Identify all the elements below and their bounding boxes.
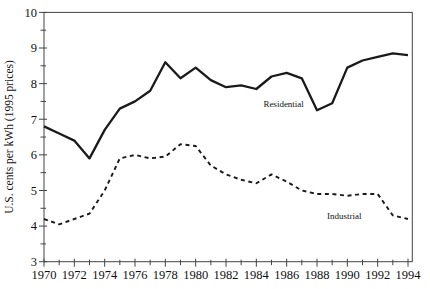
x-axis-tick-label: 1972	[62, 268, 87, 282]
x-axis-tick-label: 1978	[153, 268, 178, 282]
x-axis-tick-label: 1984	[244, 268, 270, 282]
x-axis-tick-label: 1970	[32, 268, 57, 282]
y-axis-tick-label: 7	[31, 113, 37, 127]
chart-figure: U.S. cents per kWh (1995 prices) 3456789…	[0, 0, 430, 289]
x-axis-tick-label: 1980	[183, 268, 208, 282]
y-axis-tick-label: 9	[31, 41, 37, 55]
plot-area: 3456789101970197219741976197819801982198…	[25, 6, 422, 283]
y-axis-tick-label: 8	[31, 77, 37, 91]
series-residential-line	[44, 53, 408, 158]
y-axis-tick-label: 4	[31, 219, 38, 233]
x-axis-tick-label: 1994	[396, 268, 422, 282]
x-axis-tick-label: 1988	[305, 268, 330, 282]
annotation-industrial: Industrial	[327, 211, 362, 221]
y-axis-tick-label: 3	[31, 255, 37, 269]
x-axis-tick-label: 1986	[274, 268, 299, 282]
x-axis-tick-label: 1992	[365, 268, 390, 282]
y-axis-tick-label: 5	[31, 184, 37, 198]
annotation-residential: Residential	[263, 99, 304, 109]
line-chart-canvas: U.S. cents per kWh (1995 prices) 3456789…	[0, 0, 430, 289]
y-axis-title: U.S. cents per kWh (1995 prices)	[3, 60, 16, 214]
y-axis-tick-label: 6	[31, 148, 37, 162]
x-axis-tick-label: 1982	[214, 268, 239, 282]
x-axis-tick-label: 1976	[123, 268, 148, 282]
x-axis-tick-label: 1990	[335, 268, 360, 282]
plot-frame	[44, 12, 412, 261]
x-axis-tick-label: 1974	[92, 268, 118, 282]
y-axis-tick-label: 10	[25, 6, 38, 20]
